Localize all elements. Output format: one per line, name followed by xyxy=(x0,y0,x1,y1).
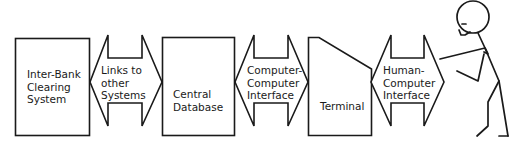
front-leg xyxy=(477,81,499,136)
links-label: Links to other Systems xyxy=(101,64,146,102)
bent-arm xyxy=(457,54,484,81)
head xyxy=(457,1,489,33)
terminal-label: Terminal xyxy=(320,100,364,113)
inter-bank-label: Inter-Bank Clearing System xyxy=(27,68,81,106)
computer-computer-label: Computer- Computer Interface xyxy=(247,64,302,102)
reaching-arm xyxy=(440,48,488,59)
central-database-box xyxy=(163,38,235,136)
central-database-label: Central Database xyxy=(173,88,223,113)
terminal-shape xyxy=(309,38,372,136)
human-computer-label: Human- Computer Interface xyxy=(383,64,435,102)
stick-figure-user xyxy=(440,1,508,136)
